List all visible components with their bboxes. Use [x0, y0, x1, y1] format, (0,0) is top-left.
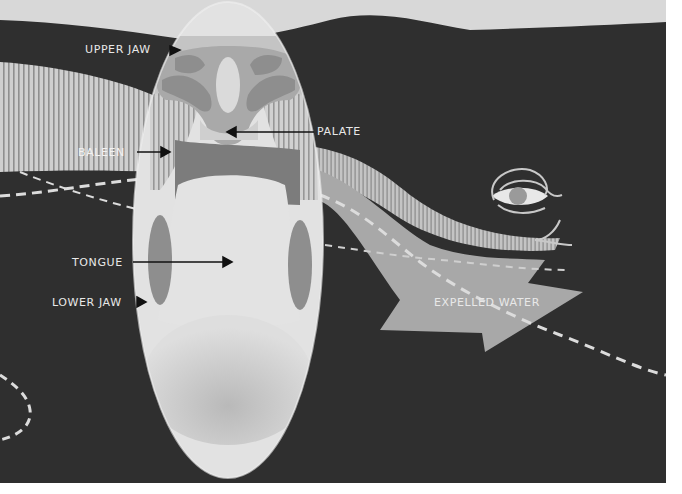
label-baleen: BALEEN: [78, 147, 125, 159]
tongue-shape: [158, 175, 300, 327]
label-upper-jaw: UPPER JAW: [85, 44, 151, 56]
label-expelled-water: EXPELLED WATER: [434, 297, 540, 309]
label-palate: PALATE: [317, 126, 361, 138]
label-tongue: TONGUE: [72, 257, 123, 269]
illustration-canvas: [0, 0, 682, 494]
label-lower-jaw: LOWER JAW: [52, 297, 122, 309]
whale-mouth-illustration: UPPER JAW PALATE BALEEN TONGUE LOWER JAW…: [0, 0, 682, 494]
